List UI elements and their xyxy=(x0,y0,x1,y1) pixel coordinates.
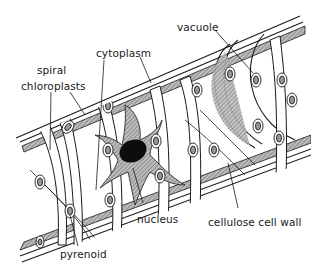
label-vacuole: vacuole xyxy=(177,22,219,33)
label-spiral: spiral xyxy=(37,65,66,76)
label-cytoplasm: cytoplasm xyxy=(96,48,151,59)
label-cellulose-cell-wall: cellulose cell wall xyxy=(208,217,302,228)
label-pyrenoid: pyrenoid xyxy=(60,249,107,260)
label-chloroplasts: chloroplasts xyxy=(21,81,86,92)
label-nucleus: nucleus xyxy=(137,214,178,225)
spirogyra-diagram xyxy=(0,0,311,280)
